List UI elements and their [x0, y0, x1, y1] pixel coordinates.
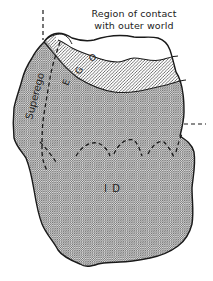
id-label: I D — [104, 183, 121, 194]
mind-structure-diagram: E G O Superego I D — [0, 0, 213, 281]
